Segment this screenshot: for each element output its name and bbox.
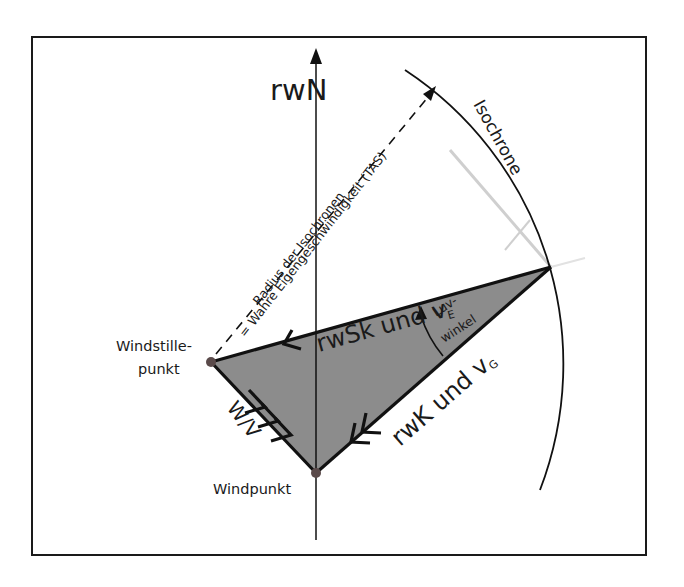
windstille-label-line2: punkt bbox=[138, 361, 180, 377]
windstille-label-line1: Windstille- bbox=[116, 338, 192, 354]
wind-triangle-figure: rwN Isochrone Radius der Isochronen = Wa… bbox=[0, 0, 684, 587]
wind-point-dot bbox=[311, 468, 321, 478]
north-arrow-icon bbox=[310, 48, 322, 64]
isochrone-label: Isochrone bbox=[470, 96, 528, 178]
radius-label-line2: = Wahre Eigengeschwindigkeit (TAS) bbox=[236, 149, 390, 340]
windstille-point-dot bbox=[206, 357, 216, 367]
windpunkt-label: Windpunkt bbox=[213, 481, 291, 497]
figure-frame bbox=[32, 37, 646, 555]
north-axis-label: rwN bbox=[270, 73, 327, 107]
